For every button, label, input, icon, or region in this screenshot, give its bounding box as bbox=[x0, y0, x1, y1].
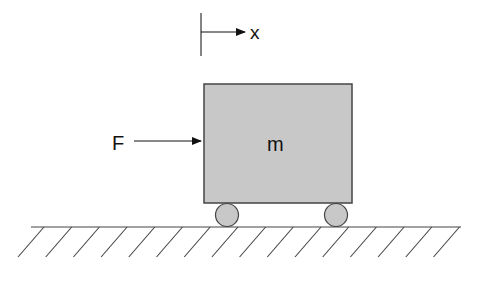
right-wheel-icon bbox=[325, 204, 348, 227]
hatch-mark bbox=[350, 227, 376, 257]
hatch-mark bbox=[406, 227, 432, 257]
hatch-mark bbox=[101, 227, 127, 257]
hatch-mark bbox=[212, 227, 238, 257]
displacement-label: x bbox=[250, 22, 260, 43]
hatch-mark bbox=[184, 227, 210, 257]
wheels bbox=[216, 204, 348, 227]
force-label: F bbox=[112, 132, 124, 154]
hatch-mark bbox=[267, 227, 293, 257]
hatch-mark bbox=[46, 227, 72, 257]
hatch-mark bbox=[323, 227, 349, 257]
mass-cart-diagram: x F m bbox=[0, 0, 482, 281]
hatch-mark bbox=[295, 227, 321, 257]
hatch-mark bbox=[240, 227, 266, 257]
hatch-mark bbox=[18, 227, 44, 257]
mass-block: m bbox=[204, 84, 352, 203]
mass-label: m bbox=[267, 133, 284, 155]
hatch-mark bbox=[378, 227, 404, 257]
applied-force: F bbox=[112, 132, 201, 154]
hatch-mark bbox=[73, 227, 99, 257]
hatch-mark bbox=[434, 227, 460, 257]
ground bbox=[18, 227, 461, 257]
hatch-mark bbox=[157, 227, 183, 257]
left-wheel-icon bbox=[216, 204, 239, 227]
hatch-mark bbox=[129, 227, 155, 257]
displacement-reference: x bbox=[201, 13, 260, 56]
ground-hatching bbox=[18, 227, 460, 257]
